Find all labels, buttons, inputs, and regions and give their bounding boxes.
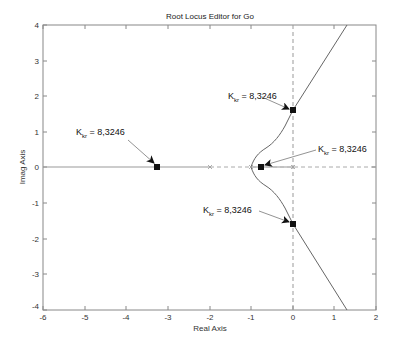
svg-text:1: 1: [35, 128, 40, 137]
svg-text:2: 2: [35, 92, 40, 101]
svg-text:-6: -6: [39, 313, 47, 322]
svg-text:Kkr = 8,3246: Kkr = 8,3246: [76, 127, 125, 139]
chart-title: Root Locus Editor for Go: [166, 12, 255, 21]
closed-loop-pole-upper[interactable]: [290, 107, 296, 113]
root-locus-chart: Root Locus Editor for Go -6 -5 -4 -3 -2 …: [0, 0, 398, 347]
x-tick-labels: -6 -5 -4 -3 -2 -1 0 1 2: [39, 313, 378, 322]
y-tick-labels: 4 3 2 1 0 -1 -2 -3 -4: [32, 21, 40, 311]
svg-text:-1: -1: [32, 199, 40, 208]
svg-text:Kkr = 8,3246: Kkr = 8,3246: [228, 91, 277, 103]
svg-text:0: 0: [35, 163, 40, 172]
svg-text:-5: -5: [81, 313, 89, 322]
y-axis-label: Imag Axis: [18, 150, 27, 185]
svg-text:Kkr = 8,3246: Kkr = 8,3246: [318, 144, 367, 156]
annotation-upper: Kkr = 8,3246: [228, 91, 289, 109]
closed-loop-pole-real-right[interactable]: [258, 164, 264, 170]
arrow-icon: [265, 150, 316, 165]
x-axis-label: Real Axis: [193, 324, 226, 333]
annotation-right-real: Kkr = 8,3246: [265, 144, 367, 165]
svg-text:-1: -1: [247, 313, 255, 322]
svg-text:-4: -4: [122, 313, 130, 322]
svg-text:Kkr = 8,3246: Kkr = 8,3246: [203, 205, 252, 217]
annotation-lower: Kkr = 8,3246: [203, 205, 289, 222]
closed-loop-pole-lower[interactable]: [290, 221, 296, 227]
svg-text:-2: -2: [32, 235, 40, 244]
svg-text:-3: -3: [164, 313, 172, 322]
annotation-left-real: Kkr = 8,3246: [76, 127, 154, 163]
closed-loop-pole-real-left[interactable]: [154, 164, 160, 170]
svg-text:4: 4: [35, 21, 40, 30]
arrow-icon: [259, 211, 289, 222]
locus-lower-branch: [251, 167, 347, 310]
svg-text:-2: -2: [206, 313, 214, 322]
svg-text:0: 0: [291, 313, 296, 322]
svg-text:2: 2: [374, 313, 379, 322]
svg-text:-3: -3: [32, 270, 40, 279]
arrow-icon: [128, 140, 154, 163]
svg-text:3: 3: [35, 57, 40, 66]
svg-text:-4: -4: [32, 302, 40, 311]
svg-text:1: 1: [332, 313, 337, 322]
